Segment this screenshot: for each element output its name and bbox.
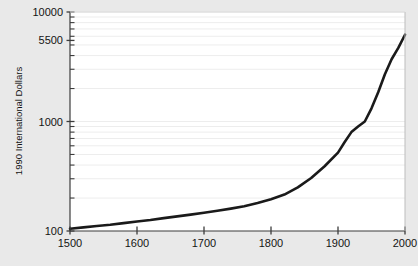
y-tick-label: 10000: [32, 6, 63, 18]
x-tick-label: 1900: [326, 237, 350, 249]
chart-container: 1001000550010000 15001600170018001900200…: [0, 0, 418, 266]
y-axis-title: 1990 International Dollars: [13, 67, 24, 176]
y-tick-label: 100: [45, 225, 63, 237]
gdp-per-capita-line-chart: 1001000550010000 15001600170018001900200…: [0, 0, 418, 266]
x-tick-label: 1600: [125, 237, 149, 249]
x-tick-label: 1800: [259, 237, 283, 249]
y-tick-label: 1000: [39, 116, 63, 128]
x-tick-label: 2000: [393, 237, 417, 249]
x-tick-label: 1500: [58, 237, 82, 249]
x-tick-label: 1700: [192, 237, 216, 249]
y-tick-label: 5500: [39, 34, 63, 46]
